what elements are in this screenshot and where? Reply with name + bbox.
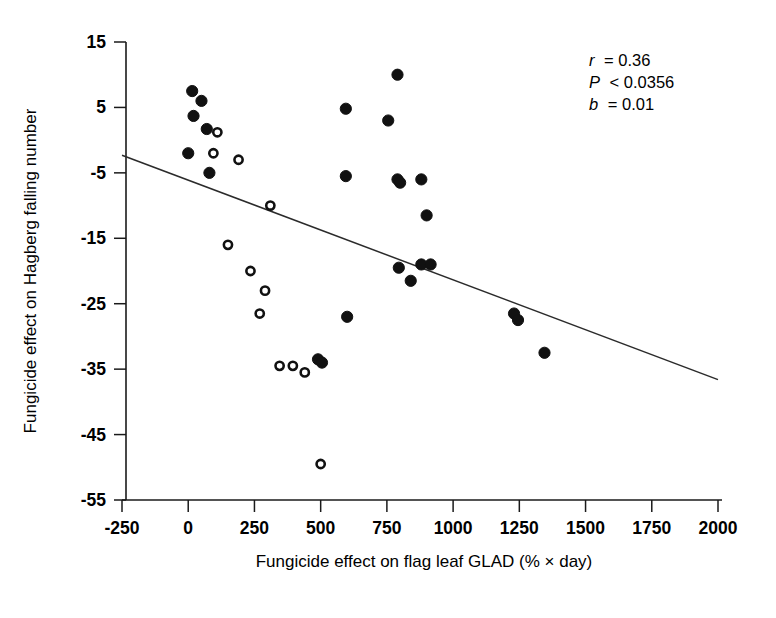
data-point-filled-circles-9	[340, 171, 351, 182]
data-point-filled-circles-16	[425, 259, 436, 270]
data-point-filled-circles-18	[342, 311, 353, 322]
y-axis: 155-5-15-25-35-45-55 Fungicide effect on…	[21, 32, 126, 510]
data-point-filled-circles-8	[383, 115, 394, 126]
stat-p-value: < 0.0356	[610, 73, 675, 91]
scatter-plot-figure: 155-5-15-25-35-45-55 Fungicide effect on…	[0, 0, 776, 618]
y-axis-title: Fungicide effect on Hagberg falling numb…	[21, 108, 40, 433]
x-axis: -250025050075010001250150017502000 Fungi…	[104, 500, 737, 571]
stat-p-symbol: P	[589, 73, 600, 91]
y-tick-label-2: -5	[90, 163, 106, 183]
stat-r-symbol: r	[589, 51, 596, 69]
x-tick-label-1: 0	[183, 518, 193, 538]
statistics-annotation: r = 0.36 P < 0.0356 b = 0.01	[589, 51, 674, 113]
x-tick-label-6: 1250	[500, 518, 539, 538]
x-tick-label-3: 500	[306, 518, 335, 538]
data-point-filled-circles-13	[421, 210, 432, 221]
data-point-filled-circles-22	[512, 314, 523, 325]
data-point-open-circles-1	[209, 149, 217, 157]
x-tick-marks	[122, 500, 718, 512]
data-point-open-circles-5	[246, 267, 254, 275]
x-tick-label-9: 2000	[699, 518, 738, 538]
data-point-filled-circles-12	[416, 174, 427, 185]
data-point-open-circles-11	[317, 460, 325, 468]
data-point-filled-circles-1	[196, 95, 207, 106]
data-point-filled-circles-2	[188, 110, 199, 121]
stat-r-value: = 0.36	[604, 51, 650, 69]
data-point-open-circles-2	[234, 156, 242, 164]
data-point-open-circles-4	[224, 241, 232, 249]
x-tick-labels: -250025050075010001250150017502000	[104, 518, 737, 538]
data-point-open-circles-10	[301, 368, 309, 376]
y-tick-label-0: 15	[87, 32, 107, 52]
y-tick-label-1: 5	[96, 97, 106, 117]
stat-b-line: b = 0.01	[589, 95, 654, 113]
plot-canvas: 155-5-15-25-35-45-55 Fungicide effect on…	[0, 0, 776, 618]
data-point-open-circles-8	[276, 362, 284, 370]
x-tick-label-5: 1000	[434, 518, 473, 538]
x-axis-title: Fungicide effect on flag leaf GLAD (% × …	[256, 552, 593, 571]
data-point-filled-circles-7	[340, 103, 351, 114]
stat-r-line: r = 0.36	[589, 51, 650, 69]
data-point-open-circles-0	[213, 128, 221, 136]
data-point-filled-circles-3	[201, 123, 212, 134]
y-tick-label-7: -55	[81, 490, 107, 510]
data-point-open-circles-6	[261, 287, 269, 295]
stat-p-line: P < 0.0356	[589, 73, 674, 91]
stat-b-symbol: b	[589, 95, 598, 113]
x-tick-label-7: 1500	[566, 518, 605, 538]
data-point-open-circles-9	[289, 362, 297, 370]
data-point-filled-circles-23	[539, 347, 550, 358]
y-tick-label-5: -35	[81, 359, 107, 379]
data-point-filled-circles-20	[316, 357, 327, 368]
data-points-open-circles	[209, 128, 324, 468]
y-tick-labels: 155-5-15-25-35-45-55	[81, 32, 107, 510]
data-point-open-circles-3	[266, 201, 274, 209]
x-tick-label-0: -250	[104, 518, 139, 538]
data-point-filled-circles-5	[204, 167, 215, 178]
data-points-filled-circles	[183, 69, 550, 368]
x-tick-label-2: 250	[240, 518, 269, 538]
data-point-filled-circles-17	[405, 275, 416, 286]
stat-b-value: = 0.01	[608, 95, 654, 113]
data-point-filled-circles-6	[392, 69, 403, 80]
y-tick-label-4: -25	[81, 294, 107, 314]
data-point-filled-circles-11	[395, 177, 406, 188]
data-point-filled-circles-0	[187, 85, 198, 96]
data-point-filled-circles-4	[183, 148, 194, 159]
y-tick-label-6: -45	[81, 425, 107, 445]
x-tick-label-4: 750	[372, 518, 401, 538]
data-point-filled-circles-14	[393, 262, 404, 273]
y-tick-marks	[114, 42, 126, 500]
data-point-open-circles-7	[256, 309, 264, 317]
y-tick-label-3: -15	[81, 228, 107, 248]
x-tick-label-8: 1750	[632, 518, 671, 538]
